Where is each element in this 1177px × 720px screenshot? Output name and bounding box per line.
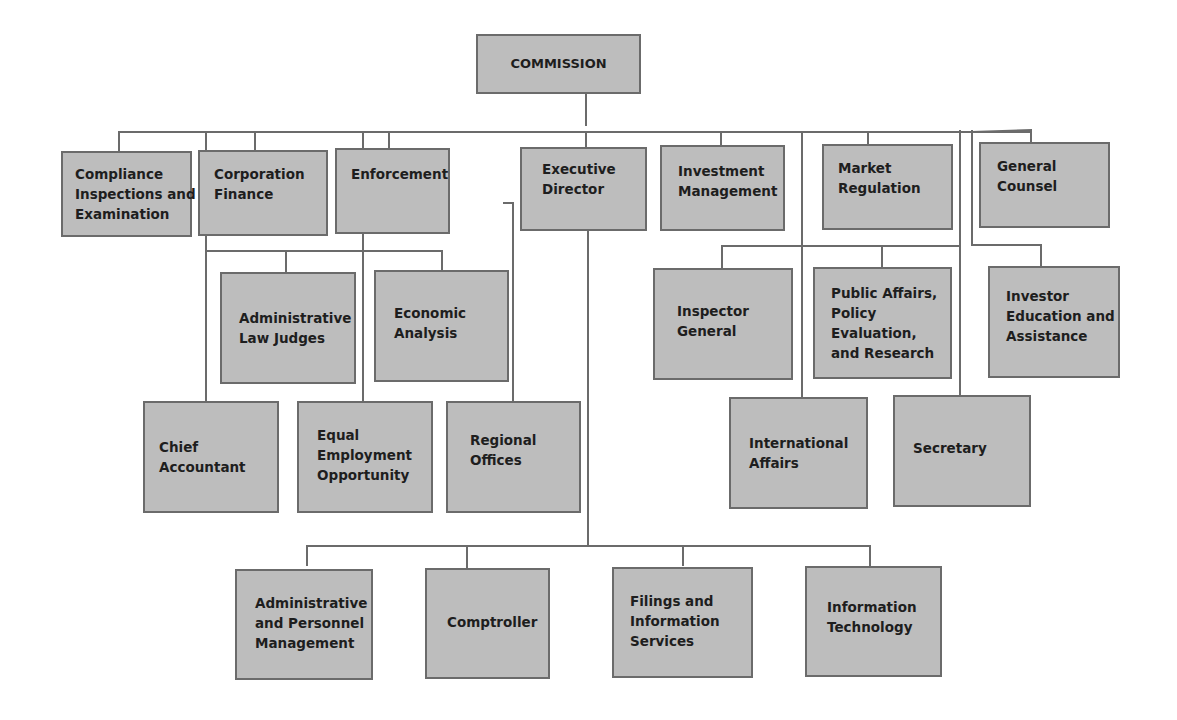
box-market-regulation[interactable]: Market Regulation <box>822 144 953 230</box>
box-label: Services <box>630 631 751 651</box>
box-label: Director <box>542 179 645 199</box>
box-label: Employment <box>317 445 431 465</box>
box-information-technology[interactable]: Information Technology <box>805 566 942 677</box>
box-international-affairs[interactable]: International Affairs <box>729 397 868 509</box>
box-label: and Personnel <box>255 613 371 633</box>
box-label: Corporation <box>214 164 326 184</box>
box-label: Regulation <box>838 178 951 198</box>
box-label: Information <box>827 597 940 617</box>
box-compliance[interactable]: Compliance Inspections and Examination <box>61 151 192 237</box>
box-label: Comptroller <box>447 612 548 632</box>
box-label: Education and <box>1006 306 1118 326</box>
box-label: Management <box>255 633 371 653</box>
box-label: Administrative <box>255 593 371 613</box>
box-label: Analysis <box>394 323 507 343</box>
box-label: Investor <box>1006 286 1118 306</box>
box-investment-management[interactable]: Investment Management <box>660 145 785 231</box>
box-public-affairs[interactable]: Public Affairs, Policy Evaluation, and R… <box>813 267 952 379</box>
box-label: Inspections and <box>75 184 190 204</box>
box-label: Compliance <box>75 164 190 184</box>
box-administrative-personnel-management[interactable]: Administrative and Personnel Management <box>235 569 373 680</box>
box-enforcement[interactable]: Enforcement <box>335 148 450 234</box>
box-commission[interactable]: COMMISSION <box>476 34 641 94</box>
box-administrative-law-judges[interactable]: Administrative Law Judges <box>220 272 356 384</box>
box-label: Chief <box>159 437 277 457</box>
box-label: Technology <box>827 617 940 637</box>
box-label: Counsel <box>997 176 1108 196</box>
box-label: Inspector <box>677 301 791 321</box>
box-label: Investment <box>678 161 783 181</box>
box-chief-accountant[interactable]: Chief Accountant <box>143 401 279 513</box>
box-label: Regional <box>470 430 579 450</box>
box-general-counsel[interactable]: General Counsel <box>979 142 1110 228</box>
box-label: International <box>749 433 866 453</box>
box-label: Policy <box>831 303 950 323</box>
box-label: Examination <box>75 204 190 224</box>
box-label: Affairs <box>749 453 866 473</box>
org-chart: COMMISSION Compliance Inspections and Ex… <box>0 0 1177 720</box>
box-label: Administrative <box>239 308 354 328</box>
box-label: and Research <box>831 343 950 363</box>
box-regional-offices[interactable]: Regional Offices <box>446 401 581 513</box>
box-label: Market <box>838 158 951 178</box>
box-label: Public Affairs, <box>831 283 950 303</box>
box-label: General <box>997 156 1108 176</box>
box-label: Assistance <box>1006 326 1118 346</box>
box-label: General <box>677 321 791 341</box>
box-label: Information <box>630 611 751 631</box>
box-label: Economic <box>394 303 507 323</box>
box-label: Accountant <box>159 457 277 477</box>
box-executive-director[interactable]: Executive Director <box>520 147 647 231</box>
box-label: Executive <box>542 159 645 179</box>
box-comptroller[interactable]: Comptroller <box>425 568 550 679</box>
box-label: Opportunity <box>317 465 431 485</box>
box-equal-employment-opportunity[interactable]: Equal Employment Opportunity <box>297 401 433 513</box>
box-label: Enforcement <box>351 164 448 184</box>
box-economic-analysis[interactable]: Economic Analysis <box>374 270 509 382</box>
box-label: COMMISSION <box>510 54 606 74</box>
box-inspector-general[interactable]: Inspector General <box>653 268 793 380</box>
box-label: Law Judges <box>239 328 354 348</box>
box-label: Equal <box>317 425 431 445</box>
box-label: Evaluation, <box>831 323 950 343</box>
box-secretary[interactable]: Secretary <box>893 395 1031 507</box>
box-corporation-finance[interactable]: Corporation Finance <box>198 150 328 236</box>
box-label: Secretary <box>913 438 1029 458</box>
box-label: Management <box>678 181 783 201</box>
box-label: Finance <box>214 184 326 204</box>
box-investor-education[interactable]: Investor Education and Assistance <box>988 266 1120 378</box>
box-label: Offices <box>470 450 579 470</box>
box-filings-information-services[interactable]: Filings and Information Services <box>612 567 753 678</box>
box-label: Filings and <box>630 591 751 611</box>
